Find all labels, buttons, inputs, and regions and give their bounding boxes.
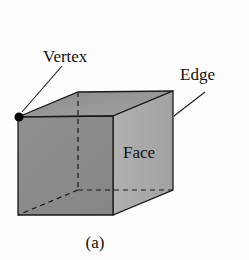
edge-label: Edge: [180, 65, 215, 84]
vertex-label: Vertex: [43, 47, 88, 66]
figure-caption: (a): [86, 233, 105, 252]
edge-leader-line: [174, 92, 205, 116]
front-face: [18, 116, 113, 215]
face-label: Face: [123, 143, 155, 162]
cube-diagram: Vertex Edge Face (a): [0, 0, 249, 260]
vertex-dot: [15, 113, 24, 122]
